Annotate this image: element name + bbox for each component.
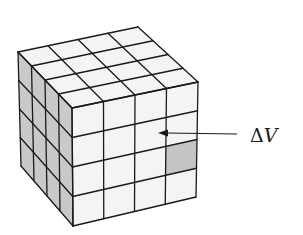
delta-symbol: Δ [250,124,264,146]
cube-diagram: ΔV [0,0,303,235]
v-symbol: V [264,124,280,146]
delta-v-label: ΔV [250,124,280,146]
